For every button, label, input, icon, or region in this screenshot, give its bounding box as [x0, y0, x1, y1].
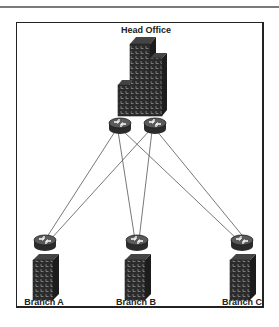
router-icon [231, 235, 253, 251]
branch-c-label: Branch C [222, 297, 262, 307]
building-icon [230, 254, 256, 300]
branch-a-label: Branch A [24, 297, 64, 307]
building-icon [125, 254, 151, 300]
router-icon [34, 235, 56, 251]
router-icon [109, 118, 131, 134]
link-ho1-branch-a [45, 130, 116, 240]
link-ho1-branch-c [122, 130, 238, 240]
link-ho1-branch-b [118, 131, 135, 240]
link-ho2-branch-a [50, 130, 150, 240]
building-icon [33, 254, 59, 300]
router-icon [126, 235, 148, 251]
router-icon [144, 118, 166, 134]
office-tower-icon [118, 37, 167, 116]
link-ho2-branch-c [156, 130, 246, 240]
links [45, 130, 246, 240]
branch-b-label: Branch B [116, 297, 156, 307]
link-ho2-branch-b [139, 131, 152, 240]
head-office-label: Head Office [121, 25, 171, 35]
network-diagram [0, 0, 279, 327]
